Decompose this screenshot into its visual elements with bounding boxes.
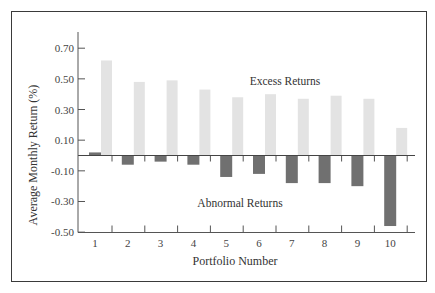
y-axis-title: Average Monthly Return (%) [26,85,40,226]
excess-return-bar [167,80,178,155]
y-tick-label: -0.30 [51,195,74,207]
abnormal-return-bar [122,156,134,165]
x-tick-label: 3 [158,237,164,249]
excess-return-bar [298,99,309,156]
excess-return-bar [265,94,276,155]
excess-return-bar [101,60,112,155]
x-tick-label: 5 [223,237,229,249]
bar-chart: 123456789100.700.500.300.10-0.10-0.30-0.… [0,0,435,293]
y-tick-label: 0.30 [55,104,75,116]
y-tick-label: 0.50 [55,73,75,85]
abnormal-return-bar [187,156,199,165]
x-tick-label: 1 [92,237,98,249]
y-tick-label: -0.10 [51,165,74,177]
excess-return-bar [363,99,374,156]
abnormal-return-bar [155,156,167,162]
x-tick-label: 10 [385,237,397,249]
excess-return-bar [134,82,145,156]
x-tick-label: 4 [191,237,197,249]
excess-returns-label: Excess Returns [250,75,321,87]
excess-return-bar [232,97,243,155]
x-axis-title: Portfolio Number [193,254,278,268]
y-tick-label: 0.10 [55,134,75,146]
abnormal-return-bar [286,156,298,184]
y-tick-label: 0.70 [55,42,75,54]
abnormal-return-bar [253,156,265,174]
x-tick-label: 7 [289,237,295,249]
abnormal-returns-label: Abnormal Returns [197,197,283,209]
excess-return-bar [331,96,342,156]
excess-return-bar [396,128,407,156]
x-tick-label: 9 [355,237,361,249]
x-tick-label: 6 [256,237,262,249]
y-tick-label: -0.50 [51,226,74,238]
abnormal-return-bar [384,156,396,227]
x-tick-label: 2 [125,237,131,249]
abnormal-return-bar [319,156,331,184]
abnormal-return-bar [220,156,232,177]
excess-return-bar [199,90,210,156]
x-tick-label: 8 [322,237,328,249]
abnormal-return-bar [351,156,363,187]
